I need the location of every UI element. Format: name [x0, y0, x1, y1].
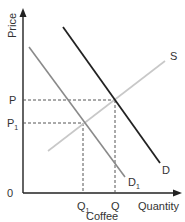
demand-curve-d [63, 27, 160, 163]
quantity-label-q: Q [111, 200, 120, 212]
demand-label-d1: D1 [128, 176, 140, 190]
price-label-p: P [9, 94, 16, 106]
supply-curve [48, 61, 165, 151]
y-axis-label: Price [6, 13, 18, 38]
demand-curve-d1 [29, 47, 125, 177]
supply-demand-diagram: Price Quantity Coffee 0 P P1 Q1 Q S D D1 [0, 0, 185, 222]
price-label-p1: P1 [7, 117, 18, 131]
quantity-label-q1: Q1 [77, 200, 90, 214]
origin-label: 0 [7, 187, 13, 199]
x-axis-label: Quantity [138, 200, 179, 212]
y-axis-arrow-icon [20, 8, 27, 17]
x-axis-arrow-icon [173, 190, 182, 197]
supply-label: S [170, 50, 177, 62]
demand-label-d: D [162, 164, 170, 176]
